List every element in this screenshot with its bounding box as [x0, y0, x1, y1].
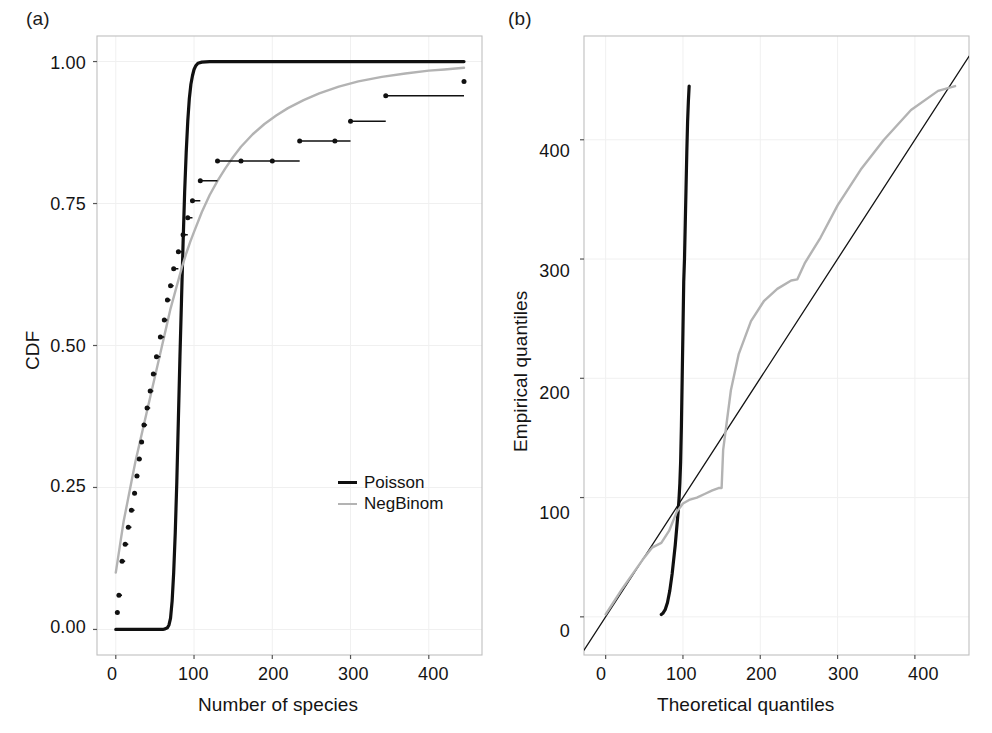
panel-b-plot — [496, 0, 992, 733]
legend-entry-negbinom[interactable]: NegBinom — [338, 493, 443, 514]
panel-b-xaxis-title: Theoretical quantiles — [657, 694, 834, 716]
panel-b-xtick-300: 300 — [828, 664, 859, 685]
panel-a-xtick-100: 100 — [178, 664, 209, 685]
panel-a-legend: Poisson NegBinom — [338, 472, 443, 514]
panel-a-xtick-400: 400 — [418, 664, 449, 685]
panel-b-xtick-200: 200 — [746, 664, 777, 685]
legend-entry-poisson[interactable]: Poisson — [338, 472, 443, 493]
panel-a-ytick-0.75: 0.75 — [30, 194, 86, 215]
panel-a-xaxis-title: Number of species — [198, 694, 358, 716]
panel-a-xtick-200: 200 — [258, 664, 289, 685]
legend-label-poisson: Poisson — [364, 473, 424, 492]
panel-a-xtick-0: 0 — [107, 664, 117, 685]
panel-b: (b) 400 300 200 100 0 0 100 200 300 400 … — [496, 0, 992, 733]
panel-b-yaxis-title: Empirical quantiles — [510, 291, 532, 452]
panel-a-ytick-0.00: 0.00 — [30, 617, 86, 638]
panel-b-ytick-0: 0 — [514, 621, 570, 642]
legend-swatch-negbinom — [338, 503, 357, 505]
figure-container: (a) 1.00 0.75 0.50 0.25 0.00 0 100 200 3… — [0, 0, 992, 733]
panel-b-ytick-100: 100 — [514, 503, 570, 524]
panel-a-yaxis-title: CDF — [22, 331, 44, 370]
legend-swatch-poisson — [338, 481, 357, 484]
panel-a-xtick-300: 300 — [338, 664, 369, 685]
legend-label-negbinom: NegBinom — [364, 494, 443, 513]
panel-a: (a) 1.00 0.75 0.50 0.25 0.00 0 100 200 3… — [0, 0, 496, 733]
panel-b-xtick-100: 100 — [666, 664, 697, 685]
panel-b-xtick-400: 400 — [908, 664, 939, 685]
panel-b-ytick-300: 300 — [514, 261, 570, 282]
panel-a-ytick-1.00: 1.00 — [30, 53, 86, 74]
panel-b-xtick-0: 0 — [596, 664, 606, 685]
panel-a-ytick-0.25: 0.25 — [30, 476, 86, 497]
panel-b-ytick-400: 400 — [514, 141, 570, 162]
